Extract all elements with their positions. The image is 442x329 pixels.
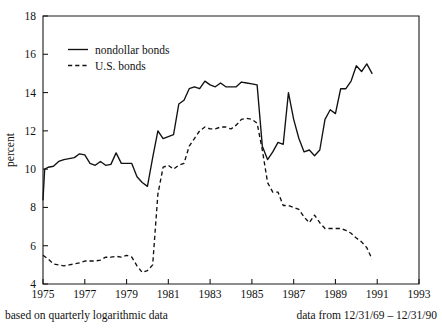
x-axis-tick-labels: 1975197719791981198319851987198919911993: [32, 288, 431, 300]
series-group: [43, 64, 372, 273]
y-tick-label: 8: [30, 201, 36, 213]
legend-label-us-bonds: U.S. bonds: [95, 60, 146, 72]
chart-figure: 4681012141618 19751977197919811983198519…: [0, 0, 442, 329]
x-tick-label: 1977: [73, 288, 96, 300]
y-axis-title: percent: [4, 132, 17, 167]
x-tick-label: 1979: [115, 288, 138, 300]
x-tick-label: 1985: [240, 288, 263, 300]
x-axis-ticks: [43, 279, 419, 284]
y-axis-ticks: [43, 16, 48, 284]
caption-right: data from 12/31/69 – 12/31/90: [296, 309, 437, 321]
x-tick-label: 1987: [282, 288, 305, 300]
y-tick-label: 10: [25, 163, 37, 175]
x-tick-label: 1981: [157, 288, 180, 300]
x-tick-label: 1991: [366, 288, 389, 300]
y-tick-label: 6: [30, 240, 36, 252]
y-axis-tick-labels: 4681012141618: [25, 10, 37, 290]
y-tick-label: 12: [25, 125, 37, 137]
y-tick-label: 14: [25, 87, 37, 99]
legend-label-nondollar-bonds: nondollar bonds: [95, 44, 170, 56]
x-tick-label: 1975: [32, 288, 55, 300]
x-tick-label: 1983: [199, 288, 222, 300]
series-nondollar-bonds: [43, 64, 372, 200]
y-tick-label: 18: [25, 10, 37, 22]
x-tick-label: 1993: [408, 288, 431, 300]
chart-legend: nondollar bonds U.S. bonds: [68, 44, 170, 72]
bond-yields-line-chart: 4681012141618 19751977197919811983198519…: [0, 0, 442, 329]
series-us-bonds: [43, 118, 372, 272]
y-tick-label: 16: [25, 48, 37, 60]
caption-left: based on quarterly logarithmic data: [5, 309, 168, 322]
x-tick-label: 1989: [324, 288, 347, 300]
